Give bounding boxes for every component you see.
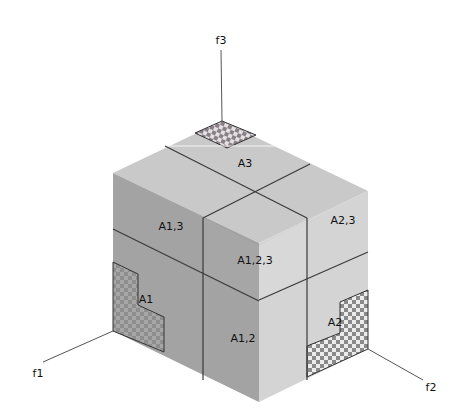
cube-diagram: f3 f1 f2 A3 A1,3 A2,3 A1,2,3 A1 A1,2 A2: [0, 0, 464, 420]
region-A13-label: A1,3: [158, 220, 183, 233]
region-A3-label: A3: [238, 157, 253, 170]
f3-label: f3: [216, 34, 227, 47]
f2-label: f2: [426, 381, 437, 394]
region-A23-label: A2,3: [330, 214, 355, 227]
region-A123-label: A1,2,3: [237, 254, 273, 267]
f1-axis-line: [43, 331, 113, 362]
f1-label: f1: [33, 367, 44, 380]
f3-axis-line: [221, 50, 222, 121]
f2-axis-line: [368, 349, 423, 380]
region-A12-label: A1,2: [230, 332, 255, 345]
region-A2-label: A2: [328, 316, 343, 329]
region-A1-label: A1: [139, 293, 154, 306]
